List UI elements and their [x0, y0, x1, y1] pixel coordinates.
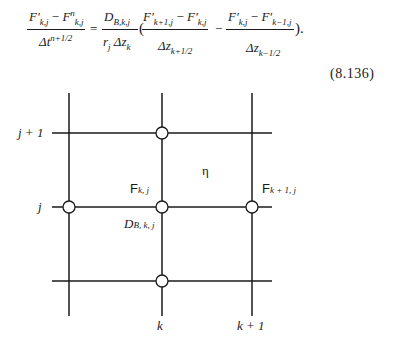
label-eta: η	[202, 163, 209, 179]
row-label-j-plus-1: j + 1	[18, 125, 43, 141]
symbol: F	[130, 181, 138, 196]
label-d-center: DB, k, j	[124, 216, 154, 232]
col-label-k: k	[157, 318, 163, 334]
symbol: F	[262, 181, 270, 196]
subscript: k + 1, j	[270, 185, 296, 195]
col-label-k-plus-1: k + 1	[237, 318, 265, 334]
symbol: D	[124, 216, 133, 231]
label-f-center: Fk, j	[130, 181, 149, 197]
grid-node	[63, 201, 75, 213]
row-label-j: j	[38, 199, 42, 215]
label-f-right: Fk + 1, j	[262, 181, 296, 197]
subscript: k, j	[138, 185, 149, 195]
grid-node	[156, 275, 168, 287]
grid-node	[156, 127, 168, 139]
grid-node-center	[156, 201, 168, 213]
subscript: B, k, j	[133, 220, 154, 230]
grid-node	[246, 201, 258, 213]
